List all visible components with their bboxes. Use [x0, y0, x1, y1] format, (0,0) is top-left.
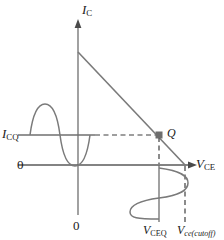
q-point-marker — [156, 132, 163, 139]
zero-label-vertical: 0 — [73, 219, 80, 232]
q-point-label: Q — [167, 127, 176, 139]
load-line-plot — [0, 0, 224, 240]
dc-load-line-figure: IC ICQ 0 0 VCE Q VCEQ Vce(cutoff) — [0, 0, 224, 240]
x-axis-label-subscript: CE — [204, 162, 215, 172]
icq-label-subscript: CQ — [6, 132, 18, 142]
vceq-label: VCEQ — [143, 224, 167, 236]
y-axis-label-subscript: C — [86, 8, 92, 18]
dc-load-line — [78, 52, 186, 166]
zero-label-horizontal: 0 — [17, 158, 24, 171]
y-axis-label: IC — [82, 3, 92, 16]
vceq-label-subscript: CEQ — [150, 229, 166, 238]
y-axis-arrowhead — [75, 19, 82, 28]
vce-cutoff-label: Vce(cutoff) — [177, 224, 216, 236]
vce-cutoff-label-subscript: ce(cutoff) — [184, 229, 215, 238]
vertical-guides-group — [159, 137, 185, 222]
icq-label: ICQ — [2, 127, 19, 140]
axes-group — [18, 19, 197, 215]
x-axis-label: VCE — [196, 157, 215, 170]
